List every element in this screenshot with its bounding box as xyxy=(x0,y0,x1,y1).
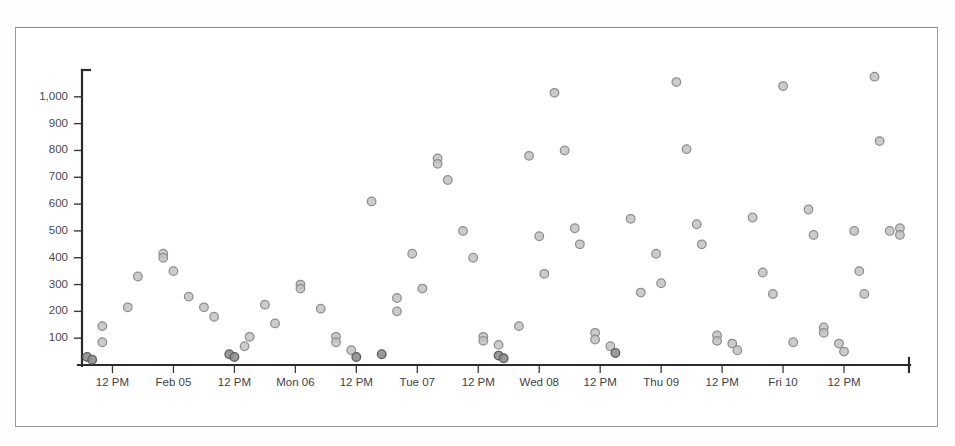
y-tick-label: 600 xyxy=(49,197,68,209)
data-point xyxy=(850,227,859,236)
data-point xyxy=(230,353,239,362)
data-point xyxy=(525,152,534,161)
data-point xyxy=(494,341,503,350)
scanned-page: 1002003004005006007008009001,000 12 PMFe… xyxy=(0,0,955,446)
data-point xyxy=(809,231,818,240)
data-point xyxy=(819,329,828,338)
x-tick-label: Tue 07 xyxy=(400,376,435,388)
plot-svg: 1002003004005006007008009001,000 12 PMFe… xyxy=(0,0,955,446)
data-point xyxy=(769,290,778,299)
data-point xyxy=(672,78,681,87)
data-point xyxy=(245,333,254,342)
data-point xyxy=(697,240,706,249)
data-point xyxy=(855,267,864,276)
x-tick-label: 12 PM xyxy=(96,376,129,388)
data-point xyxy=(499,354,508,363)
data-point xyxy=(408,249,417,258)
data-point xyxy=(393,307,402,316)
data-point xyxy=(200,303,209,312)
data-point xyxy=(316,304,325,313)
data-point xyxy=(692,220,701,229)
scatter-chart: 1002003004005006007008009001,000 12 PMFe… xyxy=(0,0,955,446)
data-point xyxy=(271,319,280,328)
x-tick-label: 12 PM xyxy=(218,376,251,388)
x-tick-label: 12 PM xyxy=(827,376,860,388)
data-point xyxy=(469,253,478,262)
data-point xyxy=(98,338,107,347)
data-point xyxy=(657,279,666,288)
x-axis: 12 PMFeb 0512 PMMon 0612 PMTue 0712 PMWe… xyxy=(96,365,861,388)
data-point xyxy=(169,267,178,276)
data-point xyxy=(835,339,844,348)
data-point xyxy=(870,72,879,81)
data-point xyxy=(332,338,341,347)
y-tick-label: 900 xyxy=(49,117,68,129)
data-point xyxy=(418,284,427,293)
data-point xyxy=(433,160,442,169)
data-point xyxy=(88,355,97,364)
data-point xyxy=(479,337,488,346)
data-point xyxy=(779,82,788,91)
data-point xyxy=(261,300,270,309)
y-tick-label: 500 xyxy=(49,224,68,236)
data-point xyxy=(733,346,742,355)
x-tick-label: Thu 09 xyxy=(643,376,679,388)
data-point xyxy=(637,288,646,297)
data-point xyxy=(134,272,143,281)
data-point xyxy=(540,270,549,279)
y-tick-label: 1,000 xyxy=(39,90,68,102)
data-point xyxy=(550,89,559,98)
x-tick-label: Feb 05 xyxy=(156,376,192,388)
x-tick-label: 12 PM xyxy=(584,376,617,388)
data-point xyxy=(840,347,849,356)
data-point xyxy=(576,240,585,249)
data-point xyxy=(515,322,524,331)
y-tick-label: 100 xyxy=(49,331,68,343)
data-point xyxy=(535,232,544,241)
y-tick-label: 400 xyxy=(49,251,68,263)
data-point xyxy=(713,337,722,346)
data-point xyxy=(860,290,869,299)
x-tick-label: Mon 06 xyxy=(276,376,314,388)
data-point xyxy=(393,294,402,303)
data-point xyxy=(804,205,813,214)
data-point xyxy=(210,312,219,321)
data-point xyxy=(98,322,107,331)
x-tick-label: 12 PM xyxy=(462,376,495,388)
data-point xyxy=(377,350,386,359)
data-point xyxy=(240,342,249,351)
data-point xyxy=(611,349,620,358)
data-point xyxy=(296,284,305,293)
data-point xyxy=(789,338,798,347)
y-axis: 1002003004005006007008009001,000 xyxy=(39,90,82,343)
data-point xyxy=(459,227,468,236)
data-point xyxy=(682,145,691,154)
data-point xyxy=(443,176,452,185)
data-point xyxy=(352,353,361,362)
axis-lines xyxy=(78,70,910,372)
data-point xyxy=(570,224,579,233)
data-point xyxy=(758,268,767,277)
x-tick-label: 12 PM xyxy=(340,376,373,388)
data-point xyxy=(560,146,569,155)
x-tick-label: Fri 10 xyxy=(768,376,797,388)
y-tick-label: 700 xyxy=(49,170,68,182)
y-tick-label: 800 xyxy=(49,143,68,155)
data-point xyxy=(896,231,905,240)
data-point xyxy=(885,227,894,236)
data-points xyxy=(83,72,904,364)
data-point xyxy=(159,253,168,262)
y-tick-label: 300 xyxy=(49,278,68,290)
x-tick-label: Wed 08 xyxy=(520,376,559,388)
data-point xyxy=(875,137,884,146)
x-tick-label: 12 PM xyxy=(705,376,738,388)
data-point xyxy=(652,249,661,258)
data-point xyxy=(626,215,635,224)
data-point xyxy=(367,197,376,206)
y-tick-label: 200 xyxy=(49,304,68,316)
data-point xyxy=(591,335,600,344)
data-point xyxy=(123,303,132,312)
data-point xyxy=(184,292,193,301)
data-point xyxy=(748,213,757,222)
